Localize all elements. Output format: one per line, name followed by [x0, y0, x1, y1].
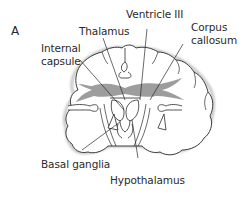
brain-coronal-section-diagram: A Ventricle III Thalamus Internal capsul…: [0, 0, 249, 202]
label-corpus-line1: Corpus: [191, 22, 227, 33]
label-ventricle-iii: Ventricle III: [126, 9, 183, 20]
label-hypothalamus: Hypothalamus: [110, 175, 185, 186]
brain-outline: [66, 45, 213, 155]
label-internal-capsule-line2: capsule: [41, 56, 81, 67]
label-internal-capsule-line1: Internal: [41, 43, 81, 54]
right-ventricle-horn: [158, 105, 182, 112]
panel-label: A: [11, 24, 19, 38]
label-corpus-line2: callosum: [191, 35, 237, 46]
left-ventricle-horn: [68, 105, 98, 112]
label-basal-ganglia: Basal ganglia: [41, 159, 110, 170]
label-thalamus: Thalamus: [79, 26, 129, 37]
